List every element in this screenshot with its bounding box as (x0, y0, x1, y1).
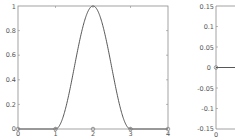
left-ytick-label: 0.2 (6, 101, 16, 109)
right-xtick-label: 0 (214, 131, 218, 139)
left-xtick-label: 4 (166, 130, 170, 138)
left-ytick-label: 0 (12, 125, 16, 133)
figure: 0 1 2 3 4 0 0.2 0.4 0.6 0.8 1 0.15 0.1 0… (0, 0, 235, 140)
left-y-ticks (18, 31, 168, 105)
right-ytick-label: -0.1 (201, 105, 214, 113)
right-ytick-label: -0.05 (197, 85, 214, 93)
left-ytick-label: 0.4 (6, 76, 16, 84)
left-plot: 0 1 2 3 4 0 0.2 0.4 0.6 0.8 1 (6, 3, 170, 139)
left-ytick-label: 0.6 (6, 51, 16, 59)
right-ytick-label: 0.1 (204, 23, 214, 31)
left-ytick-label: 1 (12, 3, 16, 11)
bump-curve (18, 6, 168, 129)
left-xtick-label: 1 (53, 130, 57, 138)
left-xtick-label: 3 (128, 130, 132, 138)
right-ytick-label: -0.15 (197, 125, 214, 133)
left-x-ticks (56, 6, 131, 129)
right-ytick-label: 0.05 (200, 44, 214, 52)
left-xtick-label: 0 (16, 130, 20, 138)
left-xtick-label: 2 (91, 130, 95, 138)
right-ytick-label: 0 (207, 64, 211, 72)
right-ytick-label: 0.15 (200, 3, 214, 11)
left-plot-frame (18, 6, 168, 129)
left-ytick-label: 0.8 (6, 27, 16, 35)
right-plot: 0.15 0.1 0.05 0 -0.05 -0.1 -0.15 0 (197, 3, 235, 140)
